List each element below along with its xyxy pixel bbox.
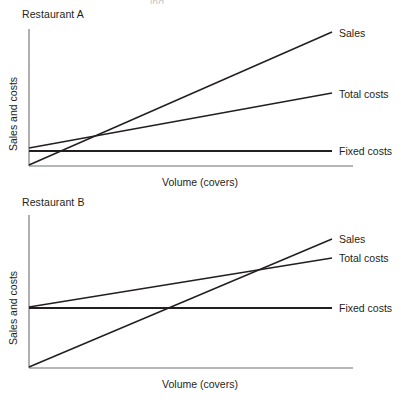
panel-a-x-axis-label: Volume (covers) (162, 176, 238, 188)
panel-b-series-sales-line (29, 239, 332, 367)
panel-b-y-axis-label: Sales and costs (7, 271, 19, 345)
chart-panel-restaurant-a: Restaurant A Sales Total costs Fixed cos… (0, 0, 401, 196)
panel-a-series-sales-line (29, 32, 332, 165)
panel-a-label-total-costs: Total costs (339, 88, 389, 100)
panel-a-series-total-costs-line (29, 93, 332, 148)
panel-a-label-fixed-costs: Fixed costs (339, 145, 392, 157)
chart-panel-restaurant-b: Restaurant B Sales Total costs Fixed cos… (0, 196, 401, 402)
break-even-figure: ing Restaurant A Sales Total costs Fixed… (0, 0, 401, 402)
panel-b-label-sales: Sales (339, 233, 365, 245)
panel-a-y-axis-label: Sales and costs (7, 77, 19, 151)
panel-b-plot: Sales Total costs Fixed costs Volume (co… (0, 196, 401, 402)
panel-b-label-total-costs: Total costs (339, 252, 389, 264)
panel-a-label-sales: Sales (339, 27, 365, 39)
panel-b-series-total-costs-line (29, 258, 332, 307)
panel-b-x-axis-label: Volume (covers) (162, 378, 238, 390)
panel-a-plot: Sales Total costs Fixed costs Volume (co… (0, 0, 401, 196)
panel-b-label-fixed-costs: Fixed costs (339, 302, 392, 314)
